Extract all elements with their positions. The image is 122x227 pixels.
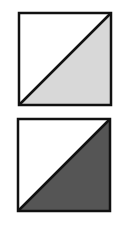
square-dark-diagonal [16, 117, 112, 213]
square-light-diagonal [17, 11, 113, 107]
